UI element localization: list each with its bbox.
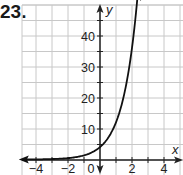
x-tick-label: 4	[161, 162, 168, 175]
y-tick-label: 20	[81, 92, 95, 106]
exponential-graph: −4−202410203040 x y	[0, 0, 183, 175]
x-axis-label: x	[171, 142, 179, 157]
curve-arrows	[19, 0, 141, 163]
x-tick-label: 2	[129, 162, 136, 175]
y-tick-label: 30	[81, 61, 95, 75]
x-tick-label: 0	[88, 162, 95, 175]
x-tick-label: −2	[61, 162, 75, 175]
y-tick-label: 10	[81, 123, 95, 137]
x-tick-label: −4	[29, 162, 43, 175]
y-tick-label: 40	[81, 30, 95, 44]
grid	[22, 5, 183, 175]
y-axis-label: y	[105, 2, 114, 17]
